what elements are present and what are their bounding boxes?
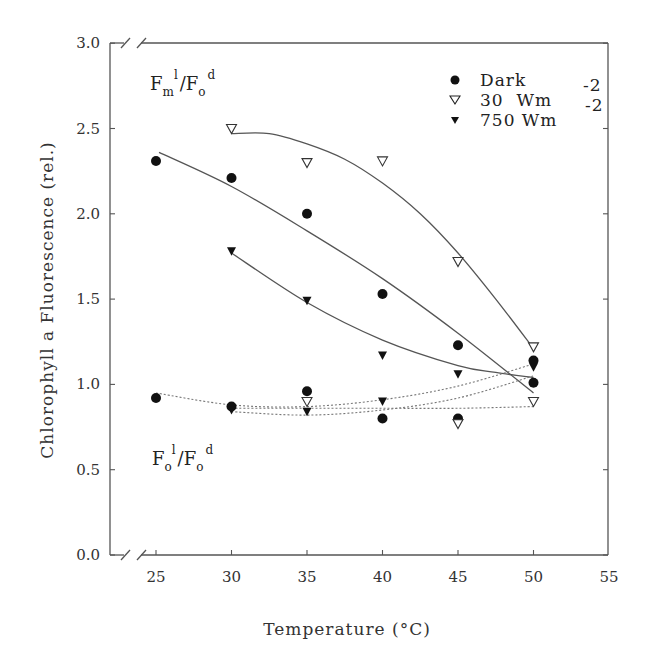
x-axis-title: Temperature (°C): [263, 619, 431, 639]
data-point-30wm: [529, 397, 539, 406]
fit-curves: [156, 133, 534, 415]
x-tick-label: 30: [222, 568, 241, 586]
y-tick-label: 0.5: [76, 461, 100, 479]
annotation-fm-over-fo: Fml/Fod: [150, 68, 216, 99]
data-point-30wm: [302, 159, 312, 168]
annotation-fo-over-fo: Fol/Fod: [152, 443, 213, 474]
fit-curve-solid: [159, 152, 533, 393]
legend-marker-filled-triangle: [451, 117, 459, 124]
legend-label-dark: Dark: [480, 70, 526, 90]
legend-label-30: 30 Wm: [480, 90, 552, 110]
chart: 253035404550550.00.51.01.52.02.53.0 Fml/…: [0, 0, 651, 662]
fit-curve-dotted: [232, 376, 534, 415]
data-point-30wm: [529, 343, 539, 352]
data-point-dark: [453, 340, 463, 350]
legend: Dark 30 Wm -2 750 Wm -2: [450, 70, 604, 130]
legend-marker-open-triangle: [450, 96, 460, 104]
data-point-30wm: [302, 397, 312, 406]
data-point-dark: [378, 289, 388, 299]
data-point-dark: [378, 414, 388, 424]
data-point-dark: [302, 386, 312, 396]
data-points: [151, 125, 539, 429]
legend-superscript-750: -2: [585, 95, 604, 115]
y-tick-label: 2.0: [76, 205, 100, 223]
x-tick-label: 35: [297, 568, 316, 586]
data-point-750wm: [378, 397, 387, 406]
legend-label-750: 750 Wm: [480, 110, 557, 130]
y-tick-label: 1.5: [76, 290, 100, 308]
x-tick-label: 55: [599, 568, 618, 586]
data-point-dark: [151, 156, 161, 166]
y-tick-label: 3.0: [76, 34, 100, 52]
data-point-dark: [529, 378, 539, 388]
data-point-30wm: [378, 157, 388, 166]
data-point-750wm: [378, 351, 387, 360]
data-point-dark: [302, 209, 312, 219]
y-tick-label: 2.5: [76, 120, 100, 138]
x-tick-label: 45: [448, 568, 467, 586]
data-point-dark: [151, 393, 161, 403]
data-point-dark: [227, 173, 237, 183]
data-point-30wm: [227, 125, 237, 134]
y-tick-label: 1.0: [76, 375, 100, 393]
x-tick-label: 40: [373, 568, 392, 586]
legend-marker-filled-circle: [451, 76, 460, 85]
y-axis-title: Chlorophyll a Fluorescence (rel.): [37, 141, 57, 458]
x-tick-label: 25: [146, 568, 165, 586]
data-point-30wm: [453, 420, 463, 429]
y-tick-label: 0.0: [76, 546, 100, 564]
data-point-750wm: [529, 363, 538, 372]
x-tick-label: 50: [524, 568, 543, 586]
data-point-30wm: [453, 258, 463, 267]
data-point-750wm: [454, 370, 463, 379]
legend-superscript-30: -2: [583, 75, 602, 95]
